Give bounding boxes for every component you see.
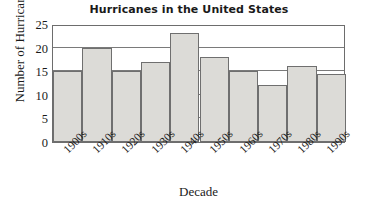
y-tick-25: 25: [8, 19, 48, 32]
chart-title: Hurricanes in the United States: [0, 3, 378, 16]
chart-figure: Hurricanes in the United States Number o…: [0, 0, 378, 206]
bar-series: [53, 26, 344, 142]
x-axis-tick-labels: 1900s1910s1920s1930s1940s1950s1960s1970s…: [52, 143, 345, 185]
bar-1940s: [170, 33, 199, 142]
y-tick-5: 5: [8, 113, 48, 126]
y-axis-tick-labels: 0510152025: [0, 25, 48, 143]
plot-area: [52, 25, 345, 143]
x-axis-title: Decade: [52, 184, 345, 200]
y-tick-20: 20: [8, 43, 48, 56]
y-tick-0: 0: [8, 137, 48, 150]
y-tick-10: 10: [8, 90, 48, 103]
y-tick-15: 15: [8, 66, 48, 79]
